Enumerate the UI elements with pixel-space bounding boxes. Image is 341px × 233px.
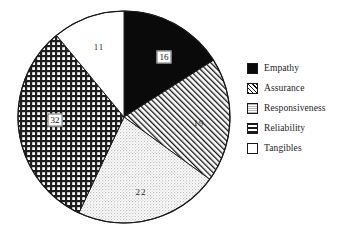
legend-label-assurance: Assurance [264, 83, 304, 94]
legend-item-reliability[interactable]: Reliability [247, 118, 341, 138]
slice-value-empathy: 16 [157, 51, 172, 64]
legend-item-assurance[interactable]: Assurance [247, 78, 341, 98]
solid-black-swatch-icon [247, 63, 258, 74]
crosshatch-swatch-icon [247, 123, 258, 134]
legend-item-responsiveness[interactable]: Responsiveness [247, 98, 341, 118]
legend-label-responsiveness: Responsiveness [264, 103, 326, 114]
diagonal-hatch-swatch-icon [247, 83, 258, 94]
slice-value-tangibles: 11 [94, 42, 105, 53]
empty-white-swatch-icon [247, 143, 258, 154]
legend-label-reliability: Reliability [264, 123, 305, 134]
pie-plot-area: 16 19 22 32 11 [0, 0, 243, 233]
slice-value-assurance: 19 [194, 118, 205, 129]
legend-item-tangibles[interactable]: Tangibles [247, 138, 341, 158]
pie-svg [0, 0, 243, 233]
slice-value-responsiveness: 22 [136, 187, 147, 198]
pie-chart-figure: 16 19 22 32 11 Empathy Assurance Respons… [0, 0, 341, 233]
legend-item-empathy[interactable]: Empathy [247, 58, 341, 78]
legend-label-tangibles: Tangibles [264, 143, 302, 154]
chart-legend: Empathy Assurance Responsiveness Reliabi… [247, 58, 341, 158]
legend-label-empathy: Empathy [264, 63, 299, 74]
slice-value-reliability: 32 [48, 114, 63, 127]
fine-dots-swatch-icon [247, 103, 258, 114]
